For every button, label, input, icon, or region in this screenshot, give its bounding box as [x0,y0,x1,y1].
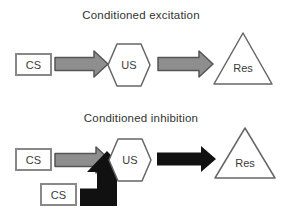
excitation-res-triangle [214,33,272,84]
inhibition-arrow-us-res [157,146,216,172]
inhibition-cs1-box [16,149,51,170]
diagram-shapes [0,0,288,213]
excitation-us-hexagon [108,44,150,86]
inhibition-title: Conditioned inhibition [0,112,282,124]
inhibition-res-triangle [215,128,275,178]
conditioning-diagram: Conditioned excitation CS US Res Conditi… [0,0,288,213]
excitation-arrow-us-res [158,51,213,77]
inhibition-us-hexagon [109,139,151,181]
excitation-arrow-cs-us [55,51,108,77]
excitation-cs-box [16,54,51,75]
excitation-title: Conditioned excitation [0,9,282,21]
inhibition-cs2-box [41,184,76,205]
